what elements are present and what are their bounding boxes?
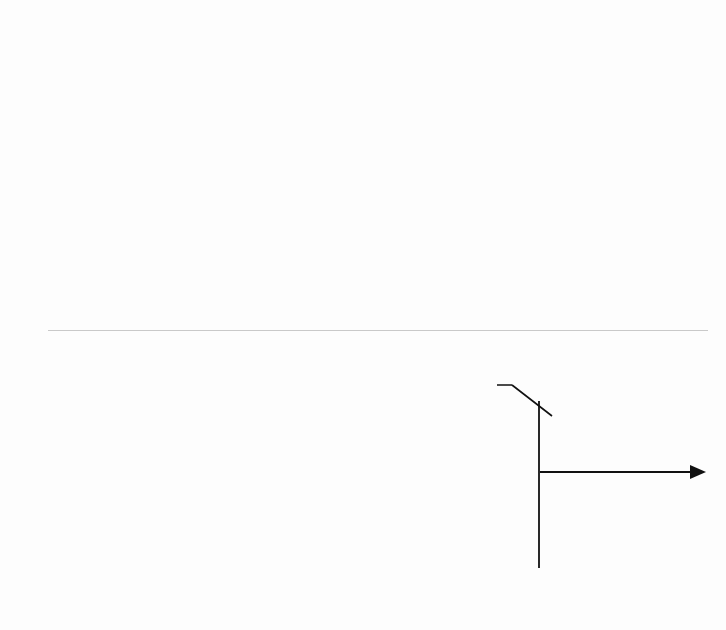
event-arrow-head	[690, 465, 706, 479]
annotation-leader-line	[497, 385, 552, 416]
roll-angle-chart-top	[0, 0, 726, 315]
figure-page	[0, 0, 726, 630]
chart-bottom	[0, 315, 726, 630]
roll-angle-chart-bottom	[0, 315, 726, 630]
chart-top	[0, 0, 726, 315]
